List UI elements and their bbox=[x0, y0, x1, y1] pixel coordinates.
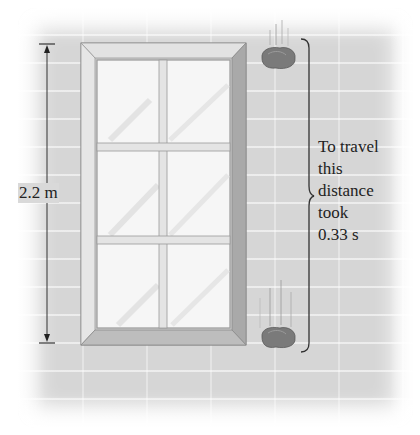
height-label: 2.2 m bbox=[18, 183, 59, 203]
rock-top bbox=[262, 20, 295, 69]
time-caption: To travel this distance took 0.33 s bbox=[318, 136, 379, 246]
caption-line: this bbox=[318, 158, 379, 180]
window bbox=[81, 43, 246, 345]
rock-bottom bbox=[260, 280, 295, 348]
caption-line: To travel bbox=[318, 136, 379, 158]
window-muntin-horizontal bbox=[97, 143, 230, 151]
caption-line: took bbox=[318, 202, 379, 224]
window-muntin-vertical bbox=[159, 60, 167, 328]
window-muntin-horizontal bbox=[97, 236, 230, 244]
caption-line: distance bbox=[318, 180, 379, 202]
curly-brace bbox=[301, 39, 314, 352]
caption-line: 0.33 s bbox=[318, 224, 379, 246]
